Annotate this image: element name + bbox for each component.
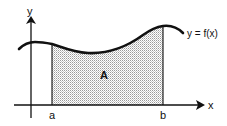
x-axis-label: x [208, 99, 214, 111]
y-axis-label: y [27, 5, 33, 17]
shaded-area-A [52, 26, 163, 105]
curve-label: y = f(x) [187, 28, 218, 39]
upper-bound-label: b [160, 109, 166, 121]
area-under-curve-diagram: y x y = f(x) A a b [0, 0, 227, 126]
area-label: A [100, 69, 108, 81]
lower-bound-label: a [49, 109, 56, 121]
